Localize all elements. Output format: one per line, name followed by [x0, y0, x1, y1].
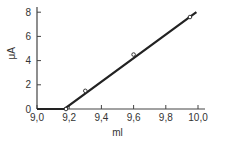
- x-axis-label: ml: [112, 127, 123, 138]
- series-line: [37, 12, 196, 109]
- data-point: [64, 107, 68, 111]
- series-group: [37, 12, 196, 111]
- data-point: [132, 53, 136, 57]
- x-tick-label: 9,6: [127, 112, 141, 123]
- x-tick-label: 9,2: [62, 112, 76, 123]
- chart: 9,09,29,49,69,810,0 02468 ml μA: [0, 0, 226, 149]
- data-point: [84, 89, 88, 93]
- x-tick-label: 9,0: [30, 112, 44, 123]
- y-tick-label: 6: [25, 31, 31, 42]
- data-point: [188, 15, 192, 19]
- y-ticks: 02468: [25, 7, 41, 115]
- y-tick-label: 8: [25, 7, 31, 18]
- x-tick-label: 9,8: [159, 112, 173, 123]
- x-ticks: 9,09,29,49,69,810,0: [30, 105, 208, 123]
- axes: [37, 7, 205, 109]
- y-tick-label: 2: [25, 79, 31, 90]
- x-tick-label: 10,0: [188, 112, 208, 123]
- x-tick-label: 9,4: [94, 112, 108, 123]
- y-tick-label: 0: [25, 104, 31, 115]
- y-axis-label: μA: [6, 47, 17, 60]
- y-tick-label: 4: [25, 55, 31, 66]
